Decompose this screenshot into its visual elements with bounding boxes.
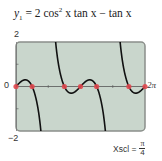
zero-point	[30, 84, 35, 89]
zero-point	[126, 84, 131, 89]
zero-point	[94, 84, 99, 89]
zero-point	[62, 84, 67, 89]
graph-screen	[0, 0, 162, 161]
xscl-label: Xscl = π4	[113, 140, 145, 157]
zero-point	[78, 84, 83, 89]
zero-point	[13, 84, 18, 89]
zero-point	[142, 84, 147, 89]
